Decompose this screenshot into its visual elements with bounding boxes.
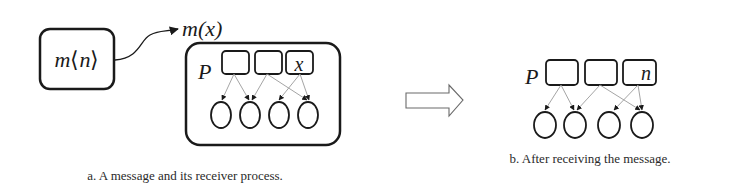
send-arrow bbox=[115, 29, 178, 60]
hollow-right-arrow-icon bbox=[406, 85, 463, 116]
slot-links-b bbox=[545, 85, 642, 110]
process-label-b: P bbox=[524, 64, 538, 89]
message-label: m⟨n⟩ bbox=[55, 47, 100, 72]
node-circle-1 bbox=[211, 102, 231, 128]
slot-3-label: x bbox=[294, 53, 304, 75]
receiver-pattern-label: m(x) bbox=[182, 16, 222, 41]
slot-b-1 bbox=[546, 60, 578, 85]
panel-b: P n b. After receiving the message. bbox=[510, 60, 671, 166]
message-box: m⟨n⟩ bbox=[40, 29, 114, 89]
slot-b-2 bbox=[585, 60, 617, 85]
node-circle-b-2 bbox=[564, 112, 586, 138]
process-box: P x bbox=[186, 43, 340, 145]
caption-b: b. After receiving the message. bbox=[510, 151, 671, 166]
node-circle-4 bbox=[298, 102, 318, 128]
slot-links bbox=[222, 74, 309, 100]
node-circle-b-4 bbox=[631, 112, 653, 138]
diagram-canvas: m⟨n⟩ m(x) P x bbox=[0, 0, 736, 194]
caption-a: a. A message and its receiver process. bbox=[87, 168, 283, 183]
panel-a: m⟨n⟩ m(x) P x bbox=[40, 16, 340, 183]
slot-2 bbox=[255, 51, 282, 74]
slot-b-3-label: n bbox=[641, 62, 651, 84]
slot-b-3 bbox=[623, 60, 656, 85]
node-circle-2 bbox=[240, 102, 260, 128]
slot-1 bbox=[222, 51, 249, 74]
process-label: P bbox=[197, 59, 211, 84]
node-circle-3 bbox=[269, 102, 289, 128]
node-circle-b-3 bbox=[598, 112, 620, 138]
node-circle-b-1 bbox=[534, 112, 556, 138]
